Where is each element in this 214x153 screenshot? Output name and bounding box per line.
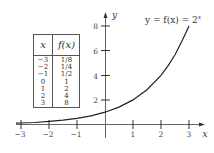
svg-text:−2: −2 xyxy=(42,130,53,139)
svg-text:1: 1 xyxy=(131,130,136,139)
table-column-fx: 1/8 1/4 1/2 1 2 4 8 xyxy=(53,57,80,107)
table-header-fx: f(x) xyxy=(53,39,80,50)
svg-text:−3: −3 xyxy=(14,130,25,139)
table-header-x: x xyxy=(34,39,52,50)
svg-text:2: 2 xyxy=(93,96,98,105)
x-tick-labels: −3 −2 −1 1 2 3 xyxy=(14,130,191,139)
x-axis-label: x xyxy=(202,129,207,139)
svg-text:3: 3 xyxy=(187,130,192,139)
y-axis-arrow-icon xyxy=(104,12,108,18)
values-table: x f(x) −3 −2 −1 0 1 2 3 1/8 1/4 1/2 1 2 … xyxy=(33,34,80,108)
svg-text:4: 4 xyxy=(93,72,98,81)
equation-label: y = f(x) = 2x xyxy=(144,13,202,25)
table-column-x: −3 −2 −1 0 1 2 3 xyxy=(34,57,52,107)
svg-text:6: 6 xyxy=(93,47,98,56)
svg-text:8: 8 xyxy=(93,22,98,31)
svg-text:2: 2 xyxy=(159,130,164,139)
x-axis-arrow-icon xyxy=(199,123,205,127)
y-axis-label: y xyxy=(111,10,118,20)
svg-text:−1: −1 xyxy=(70,130,81,139)
y-tick-labels: 2 4 6 8 xyxy=(93,22,98,105)
